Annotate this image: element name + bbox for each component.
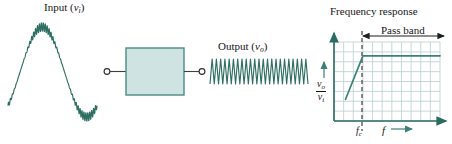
response-curve [346,56,440,99]
frequency-response-plot [324,31,446,131]
high-pass-filter-figure: Input (vi) Output (vo) Frequency respons… [0,0,452,144]
figure-artwork [0,0,452,144]
input-waveform [8,23,97,121]
filter-box [126,48,184,95]
plot-grid [334,42,440,121]
input-terminal [104,69,126,75]
output-waveform [210,59,308,84]
output-terminal [184,69,205,75]
